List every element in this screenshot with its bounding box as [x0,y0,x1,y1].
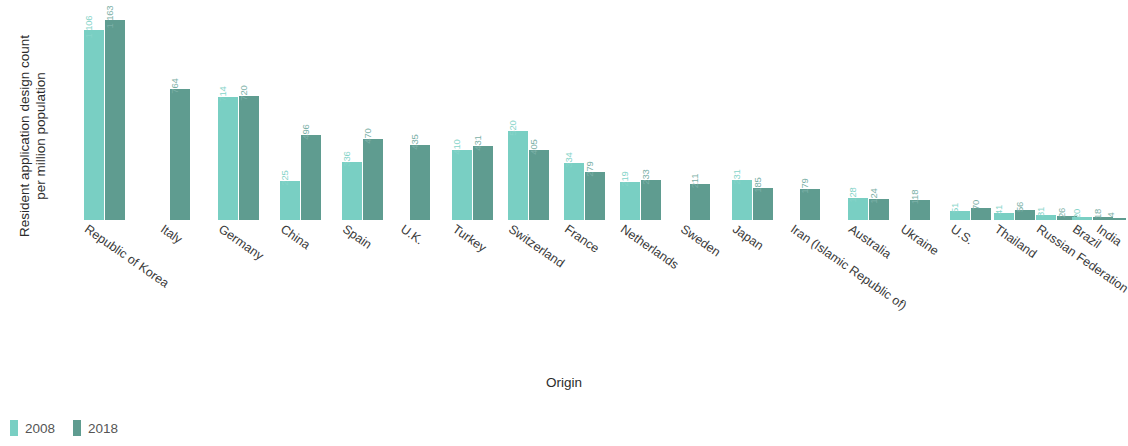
legend-swatch-icon [73,420,81,436]
bar-group: 5170 [950,14,991,220]
bar-2018[interactable]: 56 [1015,210,1035,220]
bar-2018[interactable]: 279 [585,172,605,220]
bar-2018[interactable]: 211 [690,184,710,220]
bar-2018[interactable]: 720 [239,96,259,220]
bar-group: 211 [690,14,710,220]
bar-group: 128124 [848,14,889,220]
bar-group: 714720 [218,14,259,220]
bar-2018[interactable]: 70 [971,208,991,220]
bar-2008[interactable]: 410 [452,150,472,220]
bar-group: 231185 [732,14,773,220]
bar-group: 1 1061 163 [84,14,125,220]
bar-value-label: 1 106 [83,16,94,39]
bar-2008[interactable]: 41 [994,213,1014,220]
bar-group: 118 [910,14,930,220]
x-axis-label: Australia [846,222,894,261]
bar-chart: Resident application design count per mi… [0,0,1128,446]
bar-value-label: 179 [799,179,810,194]
bar-2008[interactable]: 31 [1036,215,1056,220]
bar-value-label: 470 [362,129,373,144]
x-axis-label: Netherlands [618,222,681,272]
bar-2018[interactable]: 4 [1106,218,1126,220]
x-axis-label: Spain [340,222,374,252]
bar-group: 3126 [1036,14,1077,220]
x-axis-label: Thailand [992,222,1039,261]
legend-item-2008[interactable]: 2008 [10,420,55,436]
x-axis-category-labels: Republic of KoreaItalyGermanyChinaSpainU… [62,222,1122,372]
bar-value-label: 124 [868,188,879,203]
y-axis-title: Resident application design count per mi… [17,11,49,261]
bar-2018[interactable]: 764 [170,89,190,220]
bar-value-label: 336 [341,152,352,167]
bar-2008[interactable]: 219 [620,182,640,220]
bar-2018[interactable]: 435 [410,145,430,220]
x-axis-label: Germany [216,222,266,263]
legend-swatch-icon [10,420,18,436]
bar-group: 764 [170,14,190,220]
bar-value-label: 31 [1035,207,1046,217]
bar-value-label: 18 [1092,209,1103,219]
bar-value-label: 185 [752,178,763,193]
x-axis-label: China [278,222,313,252]
bar-group: 520405 [508,14,549,220]
bar-2008[interactable]: 1 106 [84,30,104,220]
bar-value-label: 714 [217,87,228,102]
bar-value-label: 70 [970,200,981,210]
x-axis-label: Turkey [450,222,489,255]
x-axis-label: France [562,222,602,256]
bar-group: 179 [800,14,820,220]
legend-label: 2008 [25,421,55,436]
chart-legend: 20082018 [10,420,118,436]
x-axis-label: Sweden [678,222,723,259]
bar-value-label: 279 [584,161,595,176]
bar-value-label: 225 [279,171,290,186]
bar-2018[interactable]: 179 [800,189,820,220]
legend-item-2018[interactable]: 2018 [73,420,118,436]
bar-group: 410431 [452,14,493,220]
bar-value-label: 764 [169,78,180,93]
x-axis-label: Italy [158,222,185,247]
bar-2008[interactable]: 225 [280,181,300,220]
x-axis-title: Origin [0,375,1128,390]
plot-area: 1 1061 163764714720225496336470435410431… [62,14,1122,220]
bar-2018[interactable]: 124 [869,199,889,220]
bar-group: 4156 [994,14,1035,220]
bar-2018[interactable]: 496 [301,135,321,220]
bar-value-label: 211 [689,174,700,189]
bar-group: 219233 [620,14,661,220]
bar-2018[interactable]: 233 [641,180,661,220]
bar-value-label: 431 [472,135,483,150]
bar-value-label: 231 [731,170,742,185]
bar-2018[interactable]: 405 [529,150,549,220]
bar-value-label: 334 [563,152,574,167]
bar-value-label: 435 [409,135,420,150]
bar-2008[interactable]: 51 [950,211,970,220]
bar-2008[interactable]: 336 [342,162,362,220]
bar-2018[interactable]: 431 [473,146,493,220]
bar-2008[interactable]: 231 [732,180,752,220]
bar-2008[interactable]: 128 [848,198,868,220]
bar-value-label: 219 [619,172,630,187]
bar-value-label: 51 [949,203,960,213]
bar-value-label: 128 [847,187,858,202]
bar-value-label: 4 [1105,212,1116,217]
bar-2018[interactable]: 185 [753,188,773,220]
bar-2008[interactable]: 714 [218,97,238,220]
bar-value-label: 41 [993,205,1004,215]
bar-value-label: 56 [1014,202,1025,212]
bar-value-label: 405 [528,140,539,155]
bar-group: 435 [410,14,430,220]
bar-2018[interactable]: 470 [363,139,383,220]
bar-2008[interactable]: 20 [1072,217,1092,220]
bar-value-label: 496 [300,124,311,139]
bar-2008[interactable]: 520 [508,131,528,220]
bar-2008[interactable]: 334 [564,163,584,220]
bar-value-label: 720 [238,86,249,101]
bar-value-label: 520 [507,120,518,135]
legend-label: 2018 [88,421,118,436]
bar-2018[interactable]: 118 [910,200,930,220]
bar-group: 334279 [564,14,605,220]
x-axis-label: U.K. [398,222,426,247]
bar-2018[interactable]: 1 163 [105,20,125,220]
bar-value-label: 410 [451,139,462,154]
